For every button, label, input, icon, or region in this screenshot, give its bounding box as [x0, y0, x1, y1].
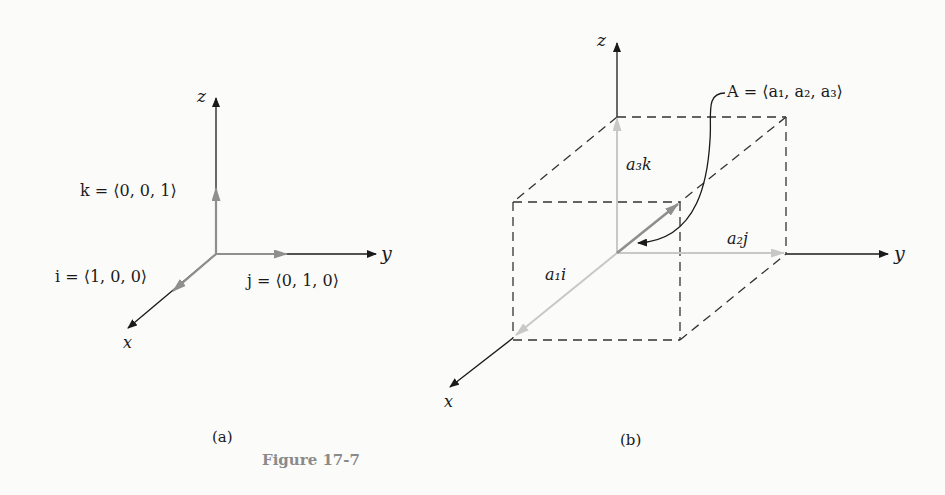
a1i-label: a₁i [545, 265, 566, 284]
y-axis-label-b: y [894, 242, 905, 264]
figure-canvas [0, 0, 945, 495]
i-vector [173, 254, 216, 291]
x-axis-label-a: x [123, 333, 132, 352]
x-axis-b [450, 338, 513, 387]
panel-a-label: (a) [212, 428, 233, 446]
j-vector-label: j = ⟨0, 1, 0⟩ [247, 271, 339, 290]
panel-b-label: (b) [620, 431, 641, 449]
a2j-label: a₂j [727, 229, 748, 248]
z-axis-label-a: z [197, 86, 206, 106]
panel-a-diagram [128, 98, 376, 328]
y-axis-label-a: y [381, 242, 392, 264]
z-axis-label-b: z [597, 30, 606, 50]
vector-A [617, 204, 678, 253]
vector-A-label: A = ⟨a₁, a₂, a₃⟩ [727, 82, 843, 101]
figure-caption: Figure 17-7 [262, 451, 360, 469]
a1i-vector [516, 253, 617, 335]
i-vector-label: i = ⟨1, 0, 0⟩ [55, 267, 147, 286]
k-vector-label: k = ⟨0, 0, 1⟩ [80, 181, 177, 200]
x-axis-label-b: x [444, 392, 453, 411]
a3k-label: a₃k [626, 155, 652, 174]
